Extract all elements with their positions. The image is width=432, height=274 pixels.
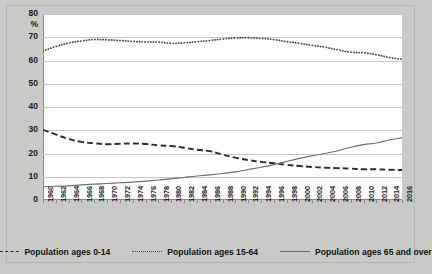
x-tick-1992 — [248, 200, 249, 203]
x-tick-1990 — [235, 200, 236, 203]
x-tick-1968 — [94, 200, 95, 203]
y-tick-label-50: 50 — [12, 79, 38, 88]
y-tick-label-10: 10 — [12, 172, 38, 181]
x-tick-1988 — [223, 200, 224, 203]
y-tick-label-80: 80 — [12, 9, 38, 18]
x-tick-2006 — [338, 200, 339, 203]
dotted-line-icon — [132, 248, 162, 256]
x-tick-1970 — [107, 200, 108, 203]
x-tick-1982 — [184, 200, 185, 203]
x-tick-2010 — [364, 200, 365, 203]
x-tick-1960 — [43, 200, 44, 203]
x-tick-1972 — [120, 200, 121, 203]
x-tick-2004 — [325, 200, 326, 203]
x-tick-1996 — [274, 200, 275, 203]
legend-label-0: Population ages 0-14 — [24, 247, 110, 257]
y-tick-label-20: 20 — [12, 149, 38, 158]
legend-item-0[interactable]: Population ages 0-14 — [0, 247, 110, 257]
x-tick-2000 — [299, 200, 300, 203]
x-tick-1994 — [261, 200, 262, 203]
x-tick-1984 — [197, 200, 198, 203]
y-axis-unit-label: % — [12, 20, 38, 29]
x-tick-2002 — [312, 200, 313, 203]
series-lines — [43, 14, 402, 200]
y-tick-label-30: 30 — [12, 125, 38, 134]
x-tick-2014 — [389, 200, 390, 203]
x-tick-2008 — [351, 200, 352, 203]
x-tick-1964 — [69, 200, 70, 203]
series-line-1 — [43, 38, 402, 60]
x-tick-1976 — [146, 200, 147, 203]
chart-legend: Population ages 0-14Population ages 15-6… — [6, 243, 415, 261]
x-tick-1962 — [56, 200, 57, 203]
legend-label-2: Population ages 65 and over — [315, 247, 432, 257]
series-line-0 — [43, 130, 402, 170]
dashed-line-icon — [0, 248, 19, 256]
series-line-2 — [43, 138, 402, 187]
x-tick-1978 — [158, 200, 159, 203]
x-tick-2012 — [376, 200, 377, 203]
legend-item-1[interactable]: Population ages 15-64 — [132, 247, 258, 257]
x-tick-1966 — [81, 200, 82, 203]
x-tick-1980 — [171, 200, 172, 203]
y-tick-label-0: 0 — [12, 195, 38, 204]
x-tick-1998 — [287, 200, 288, 203]
x-tick-2016 — [402, 200, 403, 203]
legend-item-2[interactable]: Population ages 65 and over — [280, 247, 432, 257]
y-tick-label-60: 60 — [12, 56, 38, 65]
x-tick-1974 — [133, 200, 134, 203]
y-tick-label-70: 70 — [12, 32, 38, 41]
legend-label-1: Population ages 15-64 — [167, 247, 258, 257]
x-tick-1986 — [210, 200, 211, 203]
y-tick-label-40: 40 — [12, 102, 38, 111]
solid-line-icon — [280, 248, 310, 256]
x-tick-label-2016: 2016 — [405, 186, 414, 202]
